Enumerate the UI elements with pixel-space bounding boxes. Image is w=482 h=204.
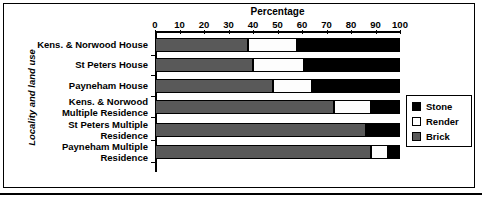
category-label-line: Residence <box>18 152 148 164</box>
bar-segment-brick[interactable] <box>155 58 253 72</box>
category-labels: Kens. & Norwood HouseSt Peters HousePayn… <box>0 0 155 204</box>
bar-segment-brick[interactable] <box>155 123 366 137</box>
legend-label: Brick <box>426 131 450 142</box>
category-label-line: Kens. & Norwood <box>18 96 148 108</box>
bar-segment-stone[interactable] <box>366 123 400 137</box>
bar-segment-render[interactable] <box>371 145 388 159</box>
x-tick-label: 20 <box>199 19 210 30</box>
legend-item[interactable]: Render <box>412 115 467 127</box>
bar-segment-brick[interactable] <box>155 100 334 114</box>
bar-row[interactable] <box>155 79 400 93</box>
bar-row[interactable] <box>155 123 400 137</box>
x-tick-label: 90 <box>370 19 381 30</box>
bar-segment-brick[interactable] <box>155 145 371 159</box>
category-label-line: Payneham House <box>18 80 148 92</box>
bar-row[interactable] <box>155 38 400 52</box>
bar-segment-brick[interactable] <box>155 38 248 52</box>
x-tick-label: 40 <box>248 19 259 30</box>
legend-item[interactable]: Stone <box>412 100 467 112</box>
category-label-line: St Peters Multiple <box>18 119 148 131</box>
x-tick-label: 60 <box>297 19 308 30</box>
bar-segment-render[interactable] <box>248 38 297 52</box>
category-label-line: Kens. & Norwood House <box>18 39 148 51</box>
bar-segment-stone[interactable] <box>312 79 400 93</box>
category-label-line: Multiple Residence <box>18 107 148 119</box>
bar-segment-brick[interactable] <box>155 79 273 93</box>
x-tick-label: 50 <box>272 19 283 30</box>
bar-segment-stone[interactable] <box>371 100 400 114</box>
bar-segment-render[interactable] <box>334 100 371 114</box>
category-label: Kens. & NorwoodMultiple Residence <box>18 96 148 119</box>
legend-swatch-icon <box>412 117 421 126</box>
chart-legend: StoneRenderBrick <box>406 95 472 147</box>
category-label: St Peters House <box>18 59 148 71</box>
category-label-line: St Peters House <box>18 59 148 71</box>
bar-segment-stone[interactable] <box>297 38 400 52</box>
bar-segment-render[interactable] <box>253 58 304 72</box>
x-tick-label: 80 <box>346 19 357 30</box>
bar-segment-stone[interactable] <box>304 58 400 72</box>
legend-swatch-icon <box>412 132 421 141</box>
category-label: Kens. & Norwood House <box>18 39 148 51</box>
chart-screenshot: Percentage Locality and land use 0102030… <box>0 0 482 204</box>
category-label: Payneham MultipleResidence <box>18 141 148 164</box>
category-label-line: Payneham Multiple <box>18 141 148 153</box>
bar-row[interactable] <box>155 58 400 72</box>
plot-area <box>155 33 400 172</box>
legend-item[interactable]: Brick <box>412 130 467 142</box>
bar-segment-stone[interactable] <box>388 145 400 159</box>
category-label: Payneham House <box>18 80 148 92</box>
legend-swatch-icon <box>412 102 421 111</box>
category-label: St Peters MultipleResidence <box>18 119 148 142</box>
x-tick-label: 70 <box>321 19 332 30</box>
x-tick-label: 100 <box>392 19 408 30</box>
legend-label: Render <box>426 116 459 127</box>
chart-title: Percentage <box>155 6 400 17</box>
legend-label: Stone <box>426 101 452 112</box>
x-tick-label: 30 <box>223 19 234 30</box>
bar-row[interactable] <box>155 145 400 159</box>
x-tick-label: 10 <box>174 19 185 30</box>
bar-segment-render[interactable] <box>273 79 312 93</box>
bar-row[interactable] <box>155 100 400 114</box>
